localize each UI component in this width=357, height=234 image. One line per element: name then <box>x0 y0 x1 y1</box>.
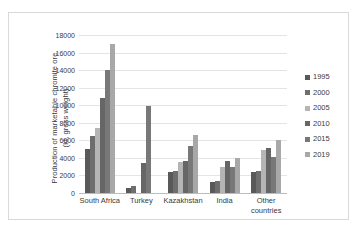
legend-swatch-icon <box>305 137 310 142</box>
legend-swatch-icon <box>305 121 310 126</box>
x-axis-tick-labels: South AfricaTurkeyKazakhstanIndiaOther c… <box>79 196 287 216</box>
bar <box>131 186 136 193</box>
legend-item-label: 2019 <box>313 151 330 159</box>
bar <box>235 158 240 193</box>
y-axis-tick-label: 18000 <box>41 32 75 39</box>
x-axis-tick-label: Kazakhstan <box>162 196 204 216</box>
y-axis-tick-label: 14000 <box>41 67 75 74</box>
y-axis-tick-label: 8000 <box>41 119 75 126</box>
bar-group <box>251 35 281 193</box>
x-axis-tick-label: South Africa <box>79 196 121 216</box>
bar <box>193 135 198 193</box>
legend-item-label: 2000 <box>313 89 330 97</box>
legend-item[interactable]: 2000 <box>305 89 330 97</box>
y-axis-tick-label: 12000 <box>41 84 75 91</box>
legend-swatch-icon <box>305 106 310 111</box>
y-axis-tick-labels: 0200040006000800010000120001400016000180… <box>41 35 75 193</box>
legend-item-label: 2010 <box>313 120 330 128</box>
legend-item[interactable]: 1995 <box>305 73 330 81</box>
legend-swatch-icon <box>305 152 310 157</box>
bar-group <box>210 35 240 193</box>
y-axis-tick-label: 4000 <box>41 154 75 161</box>
gridline <box>79 193 287 194</box>
y-axis-tick-label: 2000 <box>41 172 75 179</box>
legend-swatch-icon <box>305 90 310 95</box>
bar <box>146 106 151 193</box>
legend-item[interactable]: 2005 <box>305 104 330 112</box>
legend-item[interactable]: 2010 <box>305 120 330 128</box>
y-axis-tick-label: 0 <box>41 190 75 197</box>
legend-item-label: 1995 <box>313 73 330 81</box>
bar <box>110 44 115 193</box>
bar-groups <box>79 35 287 193</box>
y-axis-tick-label: 16000 <box>41 49 75 56</box>
y-axis-tick-label: 6000 <box>41 137 75 144</box>
legend-swatch-icon <box>305 75 310 80</box>
legend: 199520002005201020152019 <box>305 73 330 159</box>
bar-group <box>126 35 156 193</box>
legend-item-label: 2005 <box>313 104 330 112</box>
bar-group <box>85 35 115 193</box>
bar <box>276 140 281 193</box>
legend-item[interactable]: 2019 <box>305 151 330 159</box>
x-axis-tick-label: Turkey <box>121 196 163 216</box>
x-axis-tick-label: Other countries <box>245 196 287 216</box>
legend-item-label: 2015 <box>313 135 330 143</box>
legend-item[interactable]: 2015 <box>305 135 330 143</box>
chart-container: Production of marketable chromite ore (k… <box>8 12 349 220</box>
y-axis-tick-label: 10000 <box>41 102 75 109</box>
bar-group <box>168 35 198 193</box>
x-axis-tick-label: India <box>204 196 246 216</box>
